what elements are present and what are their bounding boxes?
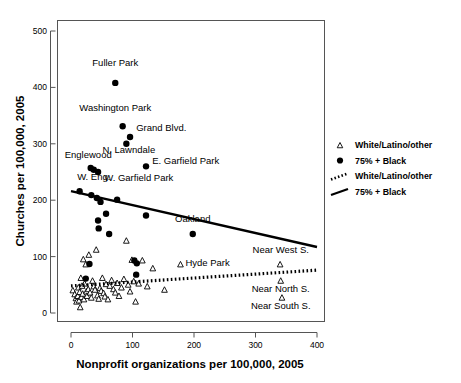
y-tick-label: 300 — [33, 139, 47, 149]
data-point-filled-circle — [127, 134, 133, 140]
data-point-filled-circle — [112, 80, 118, 86]
data-point-filled-circle — [106, 231, 112, 237]
point-label: Englewood — [65, 149, 112, 160]
data-point-filled-circle — [103, 211, 109, 217]
data-point-filled-circle — [88, 192, 94, 198]
point-label: Near South S. — [251, 300, 311, 311]
data-point-filled-circle — [143, 212, 149, 218]
data-point-filled-circle — [95, 225, 101, 231]
x-tick-label: 400 — [310, 340, 324, 350]
data-point-filled-circle — [95, 217, 101, 223]
point-label: Washington Park — [79, 102, 151, 113]
point-label: Near North S. — [252, 283, 310, 294]
y-tick-label: 200 — [33, 195, 47, 205]
legend-label: White/Latino/other — [355, 171, 433, 181]
data-point-filled-circle — [114, 196, 120, 202]
legend-label: 75% + Black — [355, 156, 406, 166]
point-label: W. Garfield Park — [104, 172, 173, 183]
point-label: Hyde Park — [185, 257, 230, 268]
scatter-plot-figure: 0100200300400500 0100200300400 Fuller Pa… — [0, 0, 461, 383]
data-point-filled-circle — [133, 271, 139, 277]
legend-symbol-filled-circle — [337, 157, 343, 163]
x-tick-label: 200 — [187, 340, 201, 350]
data-point-filled-circle — [134, 260, 140, 266]
y-axis-title: Churches per 100,000, 2005 — [14, 95, 26, 246]
x-axis-title: Nonprofit organizations per 100,000, 200… — [76, 358, 304, 370]
data-point-filled-circle — [143, 163, 149, 169]
point-label: Fuller Park — [92, 57, 138, 68]
point-label: Grand Blvd. — [136, 122, 186, 133]
point-label: Near West S. — [253, 244, 309, 255]
data-point-filled-circle — [190, 231, 196, 237]
x-tick-label: 100 — [125, 340, 139, 350]
data-point-filled-circle — [86, 261, 92, 267]
data-point-filled-circle — [119, 123, 125, 129]
y-tick-label: 400 — [33, 82, 47, 92]
legend-label: 75% + Black — [355, 187, 406, 197]
data-point-filled-circle — [97, 199, 103, 205]
data-point-filled-circle — [76, 188, 82, 194]
y-tick-label: 100 — [33, 252, 47, 262]
y-tick-label: 0 — [42, 308, 47, 318]
legend-label: White/Latino/other — [355, 140, 433, 150]
data-point-filled-circle — [83, 275, 89, 281]
x-tick-label: 0 — [69, 340, 74, 350]
y-tick-label: 500 — [33, 26, 47, 36]
x-tick-label: 300 — [248, 340, 262, 350]
point-label: E. Garfield Park — [152, 155, 219, 166]
chart-canvas: 0100200300400500 0100200300400 Fuller Pa… — [0, 0, 461, 383]
point-label: Oakland — [175, 213, 210, 224]
